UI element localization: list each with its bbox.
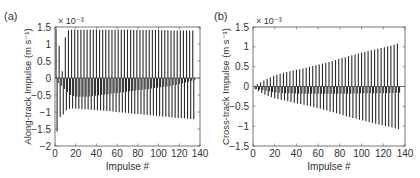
x-tick-label: 0 [250,148,256,159]
x-tick-label: 100 [150,148,167,159]
y-tick-label: 0 [45,73,51,84]
y-tick-label: 1.5 [37,22,51,33]
y-tick-label: 1 [243,41,249,52]
y-multiplier: × 10⁻³ [58,16,84,26]
x-tick-label: 40 [91,148,103,159]
figure: 020406080100120140−2−1.5−1−0.500.511.5× … [0,0,420,178]
y-tick-label: 0.5 [37,56,51,67]
x-tick-label: 120 [375,148,392,159]
y-tick-label: 0 [243,81,249,92]
x-tick-label: 0 [52,148,58,159]
y-tick-label: −1.5 [31,124,51,135]
x-tick-label: 140 [397,148,414,159]
panel-a: 020406080100120140−2−1.5−1−0.500.511.5× … [4,10,209,172]
x-tick-label: 140 [192,148,209,159]
x-tick-label: 100 [353,148,370,159]
stems [56,29,195,132]
y-tick-label: 0.5 [235,61,249,72]
y-multiplier: × 10⁻³ [256,16,282,26]
y-tick-label: −1 [40,107,52,118]
x-axis-label: Impulse # [307,161,351,172]
y-tick-label: 1.5 [235,22,249,33]
x-tick-label: 60 [313,148,325,159]
y-tick-label: −0.5 [31,90,51,101]
x-tick-label: 20 [269,148,281,159]
y-axis-label: Cross-track Impulse (m s⁻¹) [220,28,231,145]
chart-canvas: 020406080100120140−2−1.5−1−0.500.511.5× … [0,0,420,178]
x-tick-label: 40 [291,148,303,159]
panel-label: (b) [214,10,227,22]
x-tick-label: 120 [171,148,188,159]
y-axis-label: Along-track Impulse (m s⁻¹) [22,28,33,144]
y-tick-label: −2 [40,141,52,152]
y-tick-label: −1 [238,121,250,132]
panel-b: 020406080100120140−1.5−1−0.500.511.5× 10… [214,10,414,172]
y-tick-label: −0.5 [229,101,249,112]
x-tick-label: 20 [70,148,82,159]
y-tick-label: 1 [45,39,51,50]
x-axis-label: Impulse # [106,161,150,172]
x-tick-label: 60 [112,148,124,159]
x-tick-label: 80 [334,148,346,159]
panel-label: (a) [4,10,17,22]
x-tick-label: 80 [132,148,144,159]
y-tick-label: −1.5 [229,141,249,152]
